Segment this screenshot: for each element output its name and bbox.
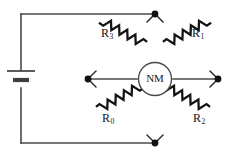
resistor-subscript-r2: 2 — [202, 117, 206, 126]
resistor-subscript-r1: 1 — [201, 32, 205, 41]
node-top — [152, 11, 159, 18]
node-bottom — [152, 140, 159, 147]
resistor-letter-r3: R — [101, 26, 109, 40]
resistor-subscript-r3: 3 — [110, 32, 114, 41]
node-right — [215, 76, 222, 83]
resistor-letter-r0: R — [102, 111, 110, 125]
resistor-subscript-r0: 0 — [111, 117, 115, 126]
resistor-label-r1: R1 — [192, 27, 204, 39]
resistor-label-r0: R0 — [102, 112, 114, 124]
resistor-letter-r2: R — [193, 111, 201, 125]
resistor-label-r2: R2 — [193, 112, 205, 124]
resistor-label-r3: R3 — [101, 27, 113, 39]
resistor-letter-r1: R — [192, 26, 200, 40]
circuit-diagram: NM R3 R1 R0 R2 — [0, 0, 227, 154]
circuit-svg: NM — [0, 0, 227, 154]
node-left — [85, 76, 92, 83]
meter-label: NM — [146, 72, 164, 84]
